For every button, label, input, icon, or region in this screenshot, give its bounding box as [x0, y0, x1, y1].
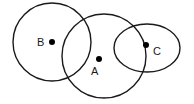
point-a-dot [96, 56, 102, 62]
overlap-diagram: B A C [0, 0, 194, 104]
point-c-dot [143, 42, 149, 48]
label-c: C [153, 45, 161, 57]
point-b-dot [49, 39, 55, 45]
label-b: B [37, 36, 44, 48]
ellipse-c [114, 24, 180, 72]
label-a: A [91, 65, 99, 77]
